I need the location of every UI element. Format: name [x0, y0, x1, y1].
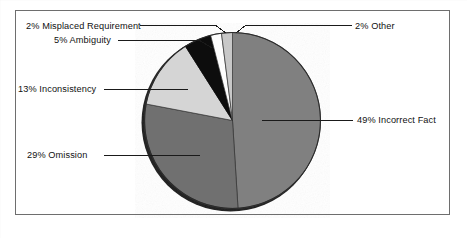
slice-label-inconsistency: 13% Inconsistency [18, 84, 96, 95]
slice-label-ambiguity: 5% Ambiguity [54, 35, 111, 46]
slice-label-misplaced-requirement: 2% Misplaced Requirement [26, 21, 141, 32]
slice-label-incorrect-fact: 49% Incorrect Fact [357, 115, 436, 126]
slice-label-omission: 29% Omission [27, 150, 87, 161]
slice-label-other: 2% Other [355, 21, 395, 32]
